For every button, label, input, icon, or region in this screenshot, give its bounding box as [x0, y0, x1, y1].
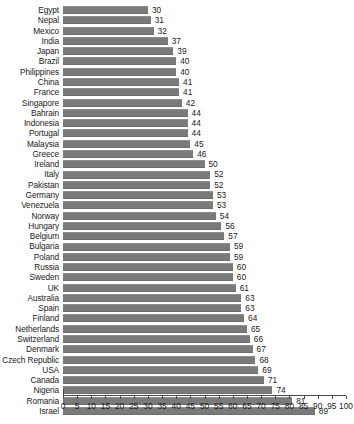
- bar-value-label: 67: [257, 344, 266, 354]
- bar-category-label: Philippines: [0, 67, 59, 77]
- bar: [63, 119, 188, 127]
- bar-value-label: 63: [245, 303, 254, 313]
- bar-value-label: 61: [240, 283, 249, 293]
- bar-row: Switzerland66: [0, 334, 354, 344]
- bar-value-label: 52: [214, 169, 223, 179]
- bar: [63, 160, 205, 168]
- bar: [63, 109, 188, 117]
- bar-row: Russia60: [0, 262, 354, 272]
- bar-category-label: India: [0, 36, 59, 46]
- bar-value-label: 40: [180, 56, 189, 66]
- bar-row: Canada71: [0, 375, 354, 385]
- bar: [63, 356, 255, 364]
- bar-value-label: 41: [183, 77, 192, 87]
- chart-rows: Egypt30Nepal31Mexico32India37Japan39Braz…: [0, 0, 354, 391]
- bar-value-label: 60: [237, 262, 246, 272]
- bar-row: Sweden60: [0, 272, 354, 282]
- bar: [63, 335, 250, 343]
- bar-row: Singapore42: [0, 98, 354, 108]
- bar-category-label: Italy: [0, 169, 59, 179]
- bar-category-label: Pakistan: [0, 180, 59, 190]
- bar-row: Philippines40: [0, 67, 354, 77]
- bar-value-label: 71: [268, 375, 277, 385]
- bar-value-label: 52: [214, 180, 223, 190]
- bar-row: Nepal31: [0, 15, 354, 25]
- bar: [63, 78, 179, 86]
- bar-row: Mexico32: [0, 26, 354, 36]
- bar-value-label: 56: [225, 221, 234, 231]
- bar: [63, 243, 230, 251]
- bar-value-label: 32: [158, 26, 167, 36]
- bar-value-label: 37: [172, 36, 181, 46]
- bar-row: Brazil40: [0, 56, 354, 66]
- bar: [63, 47, 173, 55]
- bar-row: Belgium57: [0, 231, 354, 241]
- bar-row: Poland59: [0, 252, 354, 262]
- bar-row: Greece46: [0, 149, 354, 159]
- bar-row: Israel89: [0, 406, 354, 416]
- bar-category-label: Canada: [0, 375, 59, 385]
- bar-category-label: Poland: [0, 252, 59, 262]
- bar-category-label: Hungary: [0, 221, 59, 231]
- bar-category-label: Malaysia: [0, 139, 59, 149]
- bar-category-label: Nigeria: [0, 385, 59, 395]
- bar: [63, 386, 272, 394]
- bar-category-label: Germany: [0, 190, 59, 200]
- bar-category-label: Brazil: [0, 56, 59, 66]
- bar-category-label: Singapore: [0, 98, 59, 108]
- bar-row: Germany53: [0, 190, 354, 200]
- bar-category-label: Switzerland: [0, 334, 59, 344]
- bar-value-label: 64: [248, 313, 257, 323]
- bar: [63, 314, 244, 322]
- bar: [63, 6, 148, 14]
- bar-value-label: 50: [209, 159, 218, 169]
- bar: [63, 150, 193, 158]
- bar: [63, 376, 264, 384]
- bar-category-label: Venezuela: [0, 200, 59, 210]
- bar-value-label: 39: [177, 46, 186, 56]
- bar-value-label: 57: [228, 231, 237, 241]
- bar-value-label: 59: [234, 241, 243, 251]
- bar-row: Nigeria74: [0, 385, 354, 395]
- bar-row: Australia63: [0, 293, 354, 303]
- bar-row: Venezuela53: [0, 200, 354, 210]
- bar: [63, 99, 182, 107]
- bar-value-label: 44: [192, 118, 201, 128]
- bar-value-label: 41: [183, 87, 192, 97]
- bar-value-label: 74: [276, 385, 285, 395]
- bar-category-label: Indonesia: [0, 118, 59, 128]
- bar-category-label: Mexico: [0, 26, 59, 36]
- bar-value-label: 31: [155, 15, 164, 25]
- bar-value-label: 63: [245, 293, 254, 303]
- bar-value-label: 81: [296, 396, 305, 406]
- bar-value-label: 44: [192, 128, 201, 138]
- bar-value-label: 66: [254, 334, 263, 344]
- bar: [63, 212, 216, 220]
- bar-row: Malaysia45: [0, 139, 354, 149]
- bar-category-label: UK: [0, 283, 59, 293]
- bar-row: USA69: [0, 365, 354, 375]
- bar-category-label: Greece: [0, 149, 59, 159]
- bar-category-label: Norway: [0, 211, 59, 221]
- bar-value-label: 65: [251, 324, 260, 334]
- bar: [63, 171, 210, 179]
- bar: [63, 222, 221, 230]
- bar-value-label: 45: [194, 139, 203, 149]
- bar: [63, 27, 154, 35]
- bar: [63, 37, 168, 45]
- bar-category-label: Bulgaria: [0, 241, 59, 251]
- bar-value-label: 53: [217, 200, 226, 210]
- bar: [63, 345, 253, 353]
- bar-value-label: 54: [220, 211, 229, 221]
- bar-category-label: Israel: [0, 406, 59, 416]
- bar-category-label: Portugal: [0, 128, 59, 138]
- bar-value-label: 46: [197, 149, 206, 159]
- bar: [63, 68, 176, 76]
- bar-row: Japan39: [0, 46, 354, 56]
- bar-category-label: Finland: [0, 313, 59, 323]
- bar: [63, 397, 292, 405]
- bar-row: Bulgaria59: [0, 241, 354, 251]
- bar-row: Italy52: [0, 169, 354, 179]
- bar-row: France41: [0, 87, 354, 97]
- bar-category-label: Japan: [0, 46, 59, 56]
